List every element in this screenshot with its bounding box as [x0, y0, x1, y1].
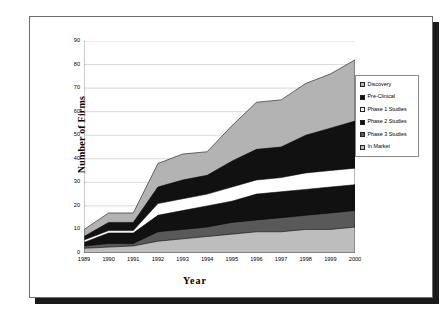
figure-frame: Number of Firms Year 9080706050403020100…	[29, 16, 433, 298]
legend-swatch-icon	[360, 107, 365, 112]
legend-swatch-icon	[360, 145, 365, 150]
y-tick-label: 30	[54, 179, 80, 185]
legend-item[interactable]: Discovery	[360, 81, 415, 88]
y-tick-label: 80	[54, 62, 80, 68]
legend-item-label: Phase 2 Studies	[368, 119, 407, 124]
plot-wrapper: Number of Firms Year 9080706050403020100…	[30, 17, 434, 299]
legend-item-label: Discovery	[368, 82, 392, 87]
legend-item[interactable]: In Market	[360, 144, 415, 151]
legend-swatch-icon	[360, 95, 365, 100]
y-tick-label: 50	[54, 132, 80, 138]
legend-item-label: Phase 1 Studies	[368, 107, 407, 112]
chart-legend: DiscoveryPre-ClinicalPhase 1 StudiesPhas…	[355, 75, 419, 157]
y-tick-label: 40	[54, 156, 80, 162]
y-tick-label: 90	[54, 38, 80, 44]
y-tick-label: 70	[54, 85, 80, 91]
plot-area	[84, 41, 355, 253]
area-series-group	[84, 60, 355, 253]
chart-figure: Number of Firms Year 9080706050403020100…	[0, 0, 445, 309]
legend-swatch-icon	[360, 120, 365, 125]
legend-item-label: In Market	[368, 144, 390, 149]
x-tick-label: 2000	[340, 257, 370, 263]
legend-item-label: Phase 3 Studies	[368, 132, 407, 137]
legend-item-label: Pre-Clinical	[368, 94, 396, 99]
legend-item[interactable]: Pre-Clinical	[360, 94, 415, 101]
y-tick-label: 10	[54, 226, 80, 232]
stacked-area-chart	[84, 41, 355, 253]
legend-item[interactable]: Phase 2 Studies	[360, 119, 415, 126]
legend-swatch-icon	[360, 82, 365, 87]
y-tick-label: 60	[54, 109, 80, 115]
legend-item[interactable]: Phase 1 Studies	[360, 106, 415, 113]
x-axis-title: Year	[30, 275, 360, 286]
y-tick-label: 20	[54, 203, 80, 209]
legend-item[interactable]: Phase 3 Studies	[360, 131, 415, 138]
legend-swatch-icon	[360, 132, 365, 137]
y-tick-label: 0	[54, 250, 80, 256]
